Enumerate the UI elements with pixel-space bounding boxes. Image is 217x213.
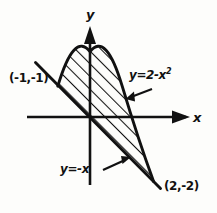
- parabola-equation-exponent: 2: [166, 67, 171, 76]
- region-hatch-fill: [58, 47, 153, 181]
- parabola-equation-base: y=2-x: [129, 68, 166, 82]
- line-equation-label: y=-x: [60, 163, 89, 175]
- x-axis-arrowhead-icon: [172, 111, 190, 124]
- line-arrow-shaft: [103, 160, 125, 170]
- shaded-region: [58, 47, 153, 181]
- parabola-equation-label: y=2-x2: [129, 68, 171, 81]
- line-arrow-head-icon: [121, 156, 131, 164]
- math-figure: y x (-1,-1) (2,-2) y=2-x2 y=-x: [0, 0, 217, 213]
- y-axis-arrowhead-icon: [84, 26, 96, 44]
- parabola-annotation-arrow: [126, 89, 153, 102]
- point-label-2-minus2: (2,-2): [164, 180, 199, 192]
- y-axis-label: y: [86, 8, 94, 21]
- line-annotation-arrow: [103, 156, 131, 170]
- x-axis-label: x: [193, 111, 201, 124]
- point-label-minus1-minus1: (-1,-1): [9, 72, 48, 84]
